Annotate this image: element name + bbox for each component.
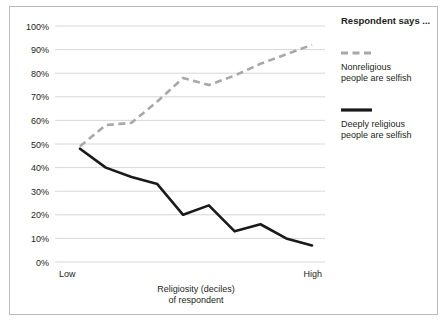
y-tick-label: 80%: [31, 69, 49, 79]
legend: Respondent says ... Nonreligious people …: [341, 15, 430, 140]
chart-figure: 100% 90% 80% 70% 60% 50% 40% 30% 20% 10%…: [0, 0, 446, 325]
x-axis-title-line1: Religiosity (deciles): [157, 284, 235, 294]
y-tick-label: 40%: [31, 163, 49, 173]
y-tick-label: 90%: [31, 45, 49, 55]
legend-entry-deeply-religious-line1: Deeply religious: [341, 119, 406, 129]
y-tick-label: 20%: [31, 210, 49, 220]
y-tick-label: 0%: [36, 258, 49, 268]
x-axis-high-label: High: [303, 269, 322, 279]
y-tick-label: 10%: [31, 234, 49, 244]
gridlines: [55, 26, 325, 262]
y-tick-label: 30%: [31, 187, 49, 197]
x-axis-title-line2: of respondent: [168, 295, 224, 305]
legend-entry-nonreligious-line2: people are selfish: [341, 73, 412, 83]
legend-title: Respondent says ...: [341, 15, 430, 26]
y-tick-label: 100%: [26, 22, 49, 32]
y-tick-label: 60%: [31, 116, 49, 126]
y-axis-labels: 100% 90% 80% 70% 60% 50% 40% 30% 20% 10%…: [26, 22, 49, 268]
legend-entry-deeply-religious-line2: people are selfish: [341, 130, 412, 140]
line-chart: 100% 90% 80% 70% 60% 50% 40% 30% 20% 10%…: [0, 0, 446, 325]
x-axis-low-label: Low: [59, 269, 76, 279]
y-tick-label: 70%: [31, 92, 49, 102]
series-line-nonreligious: [80, 45, 312, 146]
y-tick-label: 50%: [31, 140, 49, 150]
series-line-deeply-religious: [80, 149, 312, 246]
legend-entry-nonreligious-line1: Nonreligious: [341, 62, 392, 72]
